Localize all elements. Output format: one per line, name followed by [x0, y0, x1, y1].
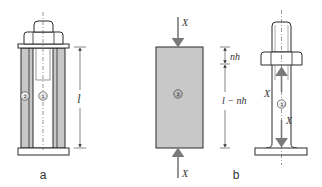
figure-b-bolt: X ① X: [255, 10, 307, 165]
dimension-l-minus-nh-label: l − nh: [222, 95, 247, 106]
figure-b-sleeve: ② X X: [156, 17, 203, 179]
sleeve-marker-text: ②: [175, 91, 181, 98]
bolt-force-up-label: X: [263, 88, 271, 99]
bolt-foot: [255, 148, 307, 155]
bolt-end: [34, 21, 53, 32]
base-plate: [18, 148, 69, 155]
figure-b-caption: b: [233, 168, 240, 182]
dimension-l-label: l: [77, 92, 81, 106]
figure-b-dimensions: nh l − nh b: [220, 47, 247, 182]
diagram-canvas: ② ① l a ② X X nh l − nh b: [0, 0, 322, 187]
part-2-text: ②: [22, 93, 28, 100]
part-1-text: ①: [40, 93, 46, 100]
figure-a-caption: a: [40, 168, 47, 182]
force-top-label: X: [181, 17, 189, 28]
force-bottom-label: X: [181, 168, 189, 179]
bolt-force-down-label: X: [285, 115, 293, 126]
nut: [24, 32, 63, 44]
figure-a-assembly: ② ① l a: [18, 12, 86, 182]
dimension-nh-label: nh: [230, 51, 240, 62]
bolt-marker-text: ①: [279, 101, 285, 108]
top-plate: [18, 44, 69, 48]
